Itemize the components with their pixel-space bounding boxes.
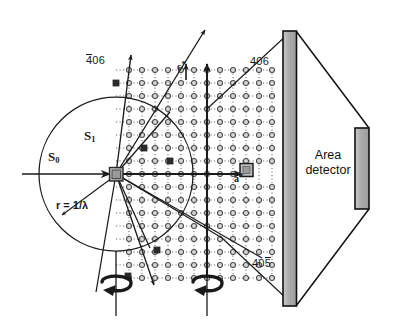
ray-4bar06 (116, 55, 131, 174)
label-406-text: 406 (250, 55, 269, 67)
label-4bar06-rest: 06 (92, 54, 105, 66)
label-area-detector-line1: Area (300, 148, 356, 163)
label-area-detector-line2: detector (300, 163, 356, 178)
reflection-node-b (141, 145, 148, 152)
label-s0-subscript: 0 (55, 155, 59, 165)
label-reflection-406: 406 (250, 56, 269, 67)
label-s1-vector: S1 (84, 129, 95, 144)
beam-to-detector-bottom (222, 238, 288, 300)
label-sphere-radius: r = 1/λ (56, 200, 88, 211)
reflection-node-c (167, 158, 174, 165)
reflection-node-d (154, 247, 161, 254)
label-reflection-4bar06: 406 (86, 54, 105, 66)
detector-edge-bottom (296, 209, 369, 306)
ray-line-4bar06-lower (96, 174, 116, 292)
detector-back-plate (355, 128, 369, 209)
label-405bar-pre: 40 (252, 257, 265, 269)
rotation-indicators (102, 251, 222, 316)
ray-lower-right-2 (116, 174, 262, 258)
ray-lower-left-b (116, 174, 150, 248)
label-reflection-405bar: 405 (252, 257, 271, 269)
label-a-star-asterisk: * (239, 171, 244, 181)
detector-front-plate (283, 31, 297, 306)
diagram-canvas: 406 406 405 S0 S1 c* a* r = 1/λ Area det… (0, 0, 398, 329)
crystal-marker (110, 168, 124, 182)
label-a-star-axis: a* (234, 172, 244, 184)
label-s0-vector: S0 (48, 150, 59, 165)
detector-edge-top (296, 31, 369, 128)
label-area-detector: Area detector (300, 148, 356, 179)
label-s1-subscript: 1 (91, 134, 95, 144)
label-c-star-axis: c* (177, 60, 186, 72)
label-c-star-asterisk: * (181, 59, 186, 69)
ray-down-arrow (116, 174, 154, 285)
reflection-node-4bar06 (113, 80, 120, 87)
label-405bar-bar: 5 (265, 257, 271, 269)
